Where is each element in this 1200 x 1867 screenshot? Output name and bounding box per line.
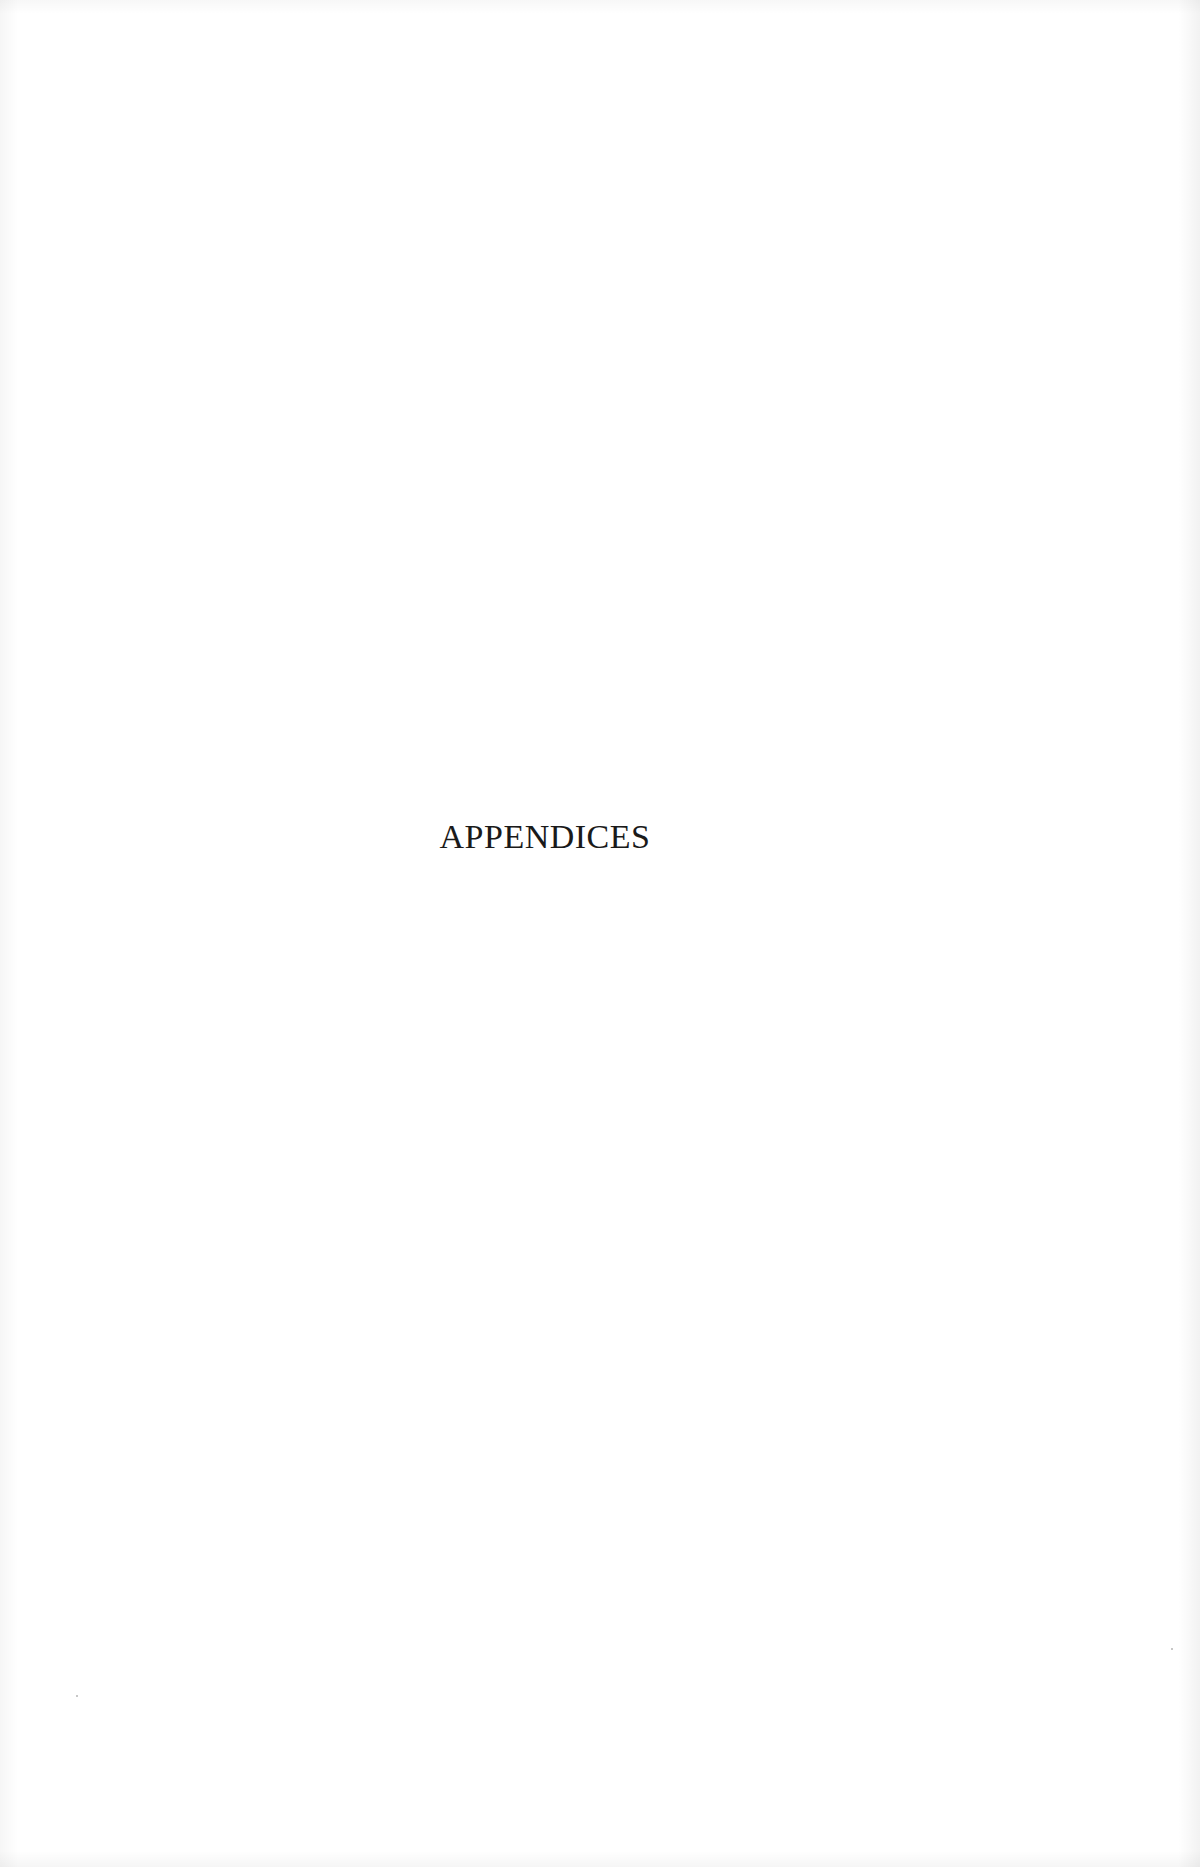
- section-heading: APPENDICES: [0, 818, 1090, 856]
- scan-speck: [1171, 1648, 1173, 1650]
- document-page: APPENDICES: [0, 0, 1200, 1867]
- scan-speck: [76, 1695, 78, 1697]
